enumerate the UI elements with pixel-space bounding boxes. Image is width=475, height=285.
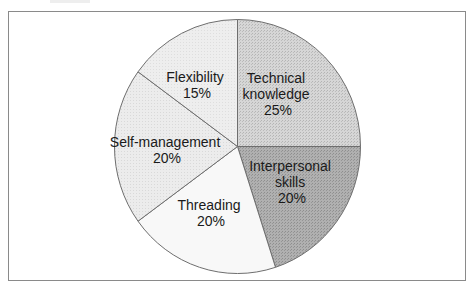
- label-value: 25%: [264, 102, 292, 118]
- label-value: 15%: [183, 85, 211, 101]
- label-line: Technical: [247, 70, 305, 86]
- label-line: skills: [275, 174, 305, 190]
- label-value: 20%: [153, 150, 181, 166]
- label-line: Self-management: [110, 134, 221, 150]
- label-value: 20%: [197, 213, 225, 229]
- pie-chart: Technical knowledge 25% Interpersonal sk…: [0, 0, 475, 285]
- label-value: 20%: [278, 190, 306, 206]
- label-line: Threading: [178, 197, 241, 213]
- label-line: Flexibility: [166, 69, 224, 85]
- label-line: Interpersonal: [249, 158, 331, 174]
- label-line: knowledge: [243, 86, 310, 102]
